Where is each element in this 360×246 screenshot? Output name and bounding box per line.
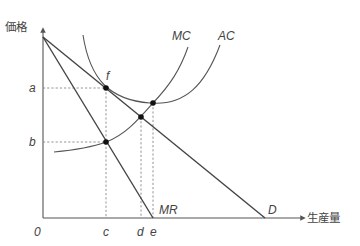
average-cost-curve: [83, 35, 220, 103]
demand-curve: [43, 37, 265, 218]
price-a-label: a: [29, 81, 36, 95]
ac-label: AC: [217, 29, 235, 43]
quantity-e-label: e: [150, 225, 157, 239]
origin-label: 0: [34, 225, 41, 239]
mc-label: MC: [172, 29, 191, 43]
mr-label: MR: [159, 203, 178, 217]
point-ac-min: [150, 100, 156, 106]
marginal-revenue-curve: [43, 37, 153, 218]
point-mc-mr-intersection: [103, 139, 109, 145]
x-axis-label: 生産量: [307, 211, 340, 225]
quantity-d-label: d: [137, 225, 144, 239]
point-f: [103, 85, 109, 91]
quantity-c-label: c: [103, 225, 109, 239]
price-b-label: b: [29, 135, 36, 149]
d-label: D: [268, 203, 277, 217]
y-axis-label: 価格: [5, 20, 28, 34]
point-mc-d-intersection: [138, 114, 144, 120]
point-f-label: f: [106, 69, 111, 83]
monopoly-cost-diagram: 価格 生産量 0 MC AC MR D a b c d e f: [0, 0, 360, 246]
